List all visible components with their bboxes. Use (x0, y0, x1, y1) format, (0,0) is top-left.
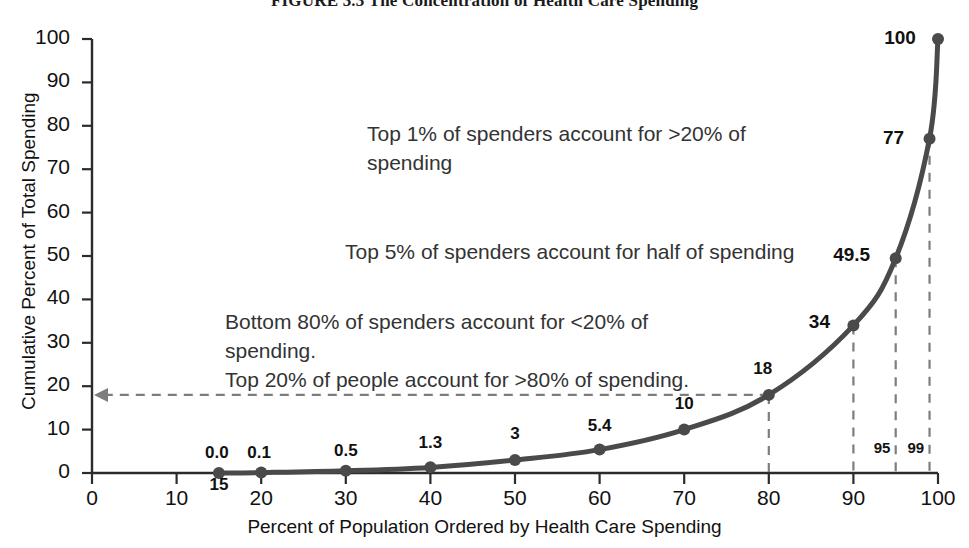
x-tick-label: 40 (400, 486, 460, 510)
data-point-label: 0.5 (326, 441, 366, 461)
data-point-marker (424, 461, 436, 473)
data-point-marker (932, 33, 944, 45)
x-tick-label: 0 (62, 486, 122, 510)
data-point-marker (509, 454, 521, 466)
annotation-line: spending (367, 149, 847, 178)
data-point-label: 3 (495, 424, 535, 444)
data-point-label: 1.3 (410, 433, 450, 453)
annotation-top-1-percent: Top 1% of spenders account for >20% of s… (367, 120, 847, 178)
annotation-line: Bottom 80% of spenders account for <20% … (225, 308, 785, 337)
y-tick-label: 0 (8, 459, 70, 483)
reference-lines (769, 139, 930, 473)
x-tick-label: 50 (485, 486, 545, 510)
x-tick-label-extra: 15 (199, 475, 239, 495)
x-tick-label: 10 (147, 486, 207, 510)
y-tick-label: 10 (8, 416, 70, 440)
data-point-marker (340, 465, 352, 477)
annotation-line: Top 5% of spenders account for half of s… (345, 238, 865, 267)
reference-vline-label: 95 (874, 439, 891, 456)
annotation-line: Top 1% of spenders account for >20% of (367, 120, 847, 149)
reference-arrow-head (94, 388, 108, 402)
data-point-marker (678, 424, 690, 436)
annotation-top-5-percent: Top 5% of spenders account for half of s… (345, 238, 865, 267)
annotation-bottom-80-percent: Bottom 80% of spenders account for <20% … (225, 308, 785, 395)
annotation-line: spending. (225, 337, 785, 366)
x-tick-label: 80 (739, 486, 799, 510)
y-tick-label: 90 (8, 68, 70, 92)
chart-figure: FIGURE 3.3 The Concentration of Health C… (0, 0, 969, 548)
y-axis-title: Cumulative Percent of Total Spending (18, 92, 40, 410)
data-point-marker (255, 467, 267, 479)
x-tick-label: 30 (316, 486, 376, 510)
plot-area (0, 0, 969, 548)
data-point-label: 5.4 (580, 416, 620, 436)
data-point-label: 34 (799, 311, 839, 333)
data-point-marker (847, 319, 859, 331)
x-tick-label: 60 (570, 486, 630, 510)
data-point-label: 0.0 (197, 443, 237, 463)
data-point-marker (924, 133, 936, 145)
annotation-line: Top 20% of people account for >80% of sp… (225, 366, 785, 395)
data-point-label: 10 (664, 394, 704, 414)
data-point-label: 0.1 (239, 443, 279, 463)
x-tick-label: 20 (231, 486, 291, 510)
data-point-marker (890, 252, 902, 264)
reference-vline-label: 99 (908, 439, 925, 456)
x-tick-label: 100 (908, 486, 968, 510)
y-tick-label: 100 (8, 25, 70, 49)
x-axis-title: Percent of Population Ordered by Health … (0, 516, 969, 538)
x-tick-label: 70 (654, 486, 714, 510)
data-point-label: 77 (874, 127, 914, 149)
y-axis-ticks (82, 39, 92, 473)
data-point-marker (594, 444, 606, 456)
x-tick-label: 90 (823, 486, 883, 510)
data-point-label: 100 (880, 27, 920, 49)
